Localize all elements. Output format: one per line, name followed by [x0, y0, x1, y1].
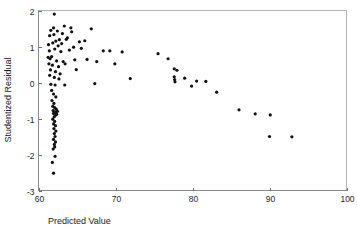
y-tick-label: 1 — [30, 43, 35, 53]
data-point — [51, 41, 54, 44]
data-point — [190, 85, 193, 88]
data-point — [51, 161, 54, 164]
data-point — [58, 72, 61, 75]
y-tick-label: -2 — [27, 151, 35, 161]
data-point — [50, 99, 53, 102]
data-point — [75, 68, 78, 71]
data-point — [65, 38, 68, 41]
x-axis-title: Predicted Value — [48, 216, 111, 226]
data-point — [269, 113, 272, 116]
data-point — [173, 67, 176, 70]
data-point — [78, 40, 81, 43]
data-point — [90, 27, 93, 30]
data-point — [290, 135, 293, 138]
data-point — [52, 127, 55, 130]
data-point — [173, 75, 176, 78]
y-tick-label: 2 — [30, 7, 35, 17]
data-point — [70, 30, 73, 33]
data-point — [54, 40, 57, 43]
data-point — [49, 83, 52, 86]
data-point — [129, 77, 132, 80]
data-point — [55, 59, 58, 62]
x-tick-label: 60 — [35, 194, 45, 204]
y-tick-label: -1 — [27, 115, 35, 125]
data-point — [48, 34, 51, 37]
data-point — [80, 47, 83, 50]
y-tick-label: -3 — [27, 187, 35, 197]
data-point — [102, 49, 105, 52]
plot-canvas: 210-1-2-3 60708090100 Predicted Value St… — [0, 0, 357, 233]
data-point — [53, 47, 56, 50]
data-point — [61, 32, 64, 35]
data-point — [53, 155, 56, 158]
data-point — [47, 62, 50, 65]
data-point — [50, 89, 53, 92]
data-point — [52, 138, 55, 141]
data-point — [183, 77, 186, 80]
data-point — [47, 43, 50, 46]
x-tick-label: 80 — [189, 194, 199, 204]
data-point — [204, 80, 207, 83]
data-point — [48, 49, 51, 52]
data-point — [254, 112, 257, 115]
data-point — [85, 58, 88, 61]
data-point — [52, 26, 55, 29]
data-point — [156, 52, 159, 55]
x-tick-label: 100 — [340, 194, 354, 204]
data-point — [175, 69, 178, 72]
data-point — [69, 26, 72, 29]
data-point — [95, 60, 98, 63]
data-point — [53, 132, 56, 135]
data-points-group — [47, 13, 294, 175]
data-point — [63, 24, 66, 27]
data-point — [48, 74, 51, 77]
data-point — [68, 49, 71, 52]
data-point — [237, 108, 240, 111]
data-point — [52, 102, 55, 105]
data-point — [53, 76, 56, 79]
x-axis-ticks: 60708090100 — [35, 188, 355, 204]
data-point — [63, 83, 66, 86]
data-point — [83, 39, 86, 42]
data-point — [166, 57, 169, 60]
data-point — [53, 13, 56, 16]
data-point — [54, 95, 57, 98]
x-axis: 60708090100 — [35, 188, 355, 204]
data-point — [52, 92, 55, 95]
data-point — [54, 124, 57, 127]
data-point — [52, 33, 55, 36]
data-point — [268, 135, 271, 138]
data-point — [53, 83, 56, 86]
data-point — [93, 82, 96, 85]
data-point — [56, 110, 59, 113]
data-point — [53, 135, 56, 138]
data-point — [60, 42, 63, 45]
plot-frame — [38, 11, 347, 191]
data-point — [59, 50, 62, 53]
data-point — [57, 44, 60, 47]
data-point — [121, 50, 124, 53]
scatter-plot-chart: 210-1-2-3 60708090100 Predicted Value St… — [0, 0, 357, 233]
data-point — [173, 80, 176, 83]
data-point — [51, 64, 54, 67]
data-point — [55, 113, 58, 116]
data-point — [72, 46, 75, 49]
x-tick-label: 90 — [266, 194, 276, 204]
data-point — [57, 77, 60, 80]
data-point — [50, 55, 53, 58]
y-axis-ticks: 210-1-2-3 — [27, 7, 42, 197]
data-point — [52, 172, 55, 175]
data-point — [215, 91, 218, 94]
data-point — [58, 38, 61, 41]
data-point — [64, 62, 67, 65]
x-tick-label: 70 — [112, 194, 122, 204]
y-tick-label: 0 — [30, 79, 35, 89]
data-point — [57, 65, 60, 68]
data-point — [54, 70, 57, 73]
data-point — [49, 29, 52, 32]
data-point — [108, 49, 111, 52]
data-point — [113, 62, 116, 65]
data-point — [56, 29, 59, 32]
data-point — [73, 58, 76, 61]
y-axis: 210-1-2-3 — [27, 7, 42, 197]
